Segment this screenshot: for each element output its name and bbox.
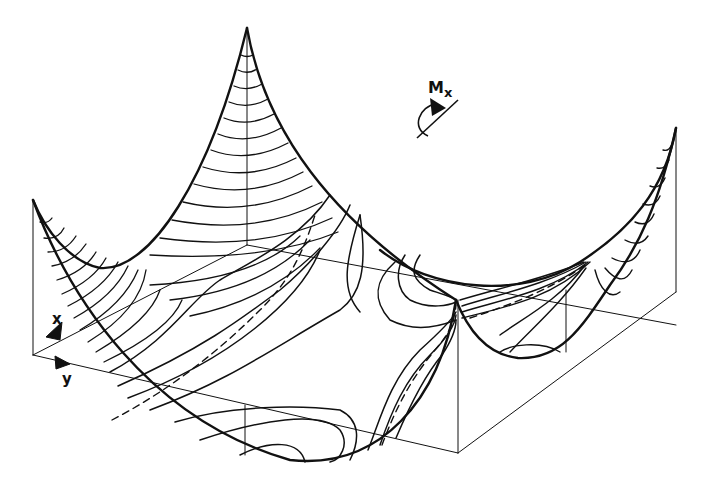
moment-subscript: x	[444, 85, 452, 100]
moment-rotation-icon	[417, 98, 458, 138]
x-axis-label: x	[52, 310, 62, 328]
bounding-box	[33, 28, 676, 455]
y-axis-label: y	[62, 370, 72, 388]
moment-label: Mx	[428, 78, 452, 100]
zero-moment-dashed-lines	[112, 215, 585, 445]
axis-arrows	[46, 322, 70, 369]
moment-surface-diagram	[0, 0, 707, 481]
surface-boundary	[33, 28, 676, 461]
contours-top-peak	[150, 55, 338, 316]
y-axis-arrow-icon	[55, 356, 70, 369]
